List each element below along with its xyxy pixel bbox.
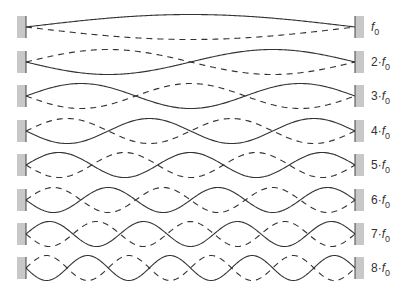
harmonic-row-8: 8·f0 (17, 256, 390, 281)
harmonic-label: 7·f0 (371, 227, 390, 244)
right-wall (355, 51, 364, 73)
right-wall (355, 223, 364, 245)
dashed-wave (26, 27, 355, 40)
left-wall (17, 257, 26, 279)
harmonic-row-2: 2·f0 (17, 50, 390, 75)
left-wall (17, 223, 26, 245)
right-wall (355, 154, 364, 176)
left-wall (17, 154, 26, 176)
left-wall (17, 16, 26, 38)
harmonic-label: 4·f0 (371, 124, 390, 141)
solid-wave (26, 188, 355, 213)
harmonic-label: 2·f0 (371, 55, 390, 72)
right-wall (355, 85, 364, 107)
harmonic-row-5: 5·f0 (17, 153, 390, 178)
solid-wave (26, 222, 355, 247)
harmonic-label: 6·f0 (371, 193, 390, 210)
left-wall (17, 51, 26, 73)
solid-wave (26, 84, 355, 109)
left-wall (17, 189, 26, 211)
harmonics-diagram: f02·f03·f04·f05·f06·f07·f08·f0 (0, 0, 402, 296)
dashed-wave (26, 222, 355, 247)
solid-wave (26, 50, 355, 75)
harmonic-row-1: f0 (17, 15, 379, 40)
standing-waves-canvas: f02·f03·f04·f05·f06·f07·f08·f0 (0, 0, 402, 296)
right-wall (355, 120, 364, 142)
dashed-wave (26, 84, 355, 109)
solid-wave (26, 15, 355, 28)
left-wall (17, 120, 26, 142)
right-wall (355, 16, 364, 38)
harmonic-label: 8·f0 (371, 261, 390, 278)
harmonic-label: f0 (371, 20, 379, 37)
solid-wave (26, 153, 355, 178)
harmonic-label: 5·f0 (371, 158, 390, 175)
harmonic-row-3: 3·f0 (17, 84, 390, 109)
harmonic-row-6: 6·f0 (17, 188, 390, 213)
right-wall (355, 257, 364, 279)
solid-wave (26, 119, 355, 144)
harmonic-row-4: 4·f0 (17, 119, 390, 144)
right-wall (355, 189, 364, 211)
solid-wave (26, 256, 355, 281)
harmonic-row-7: 7·f0 (17, 222, 390, 247)
harmonic-label: 3·f0 (371, 89, 390, 106)
left-wall (17, 85, 26, 107)
